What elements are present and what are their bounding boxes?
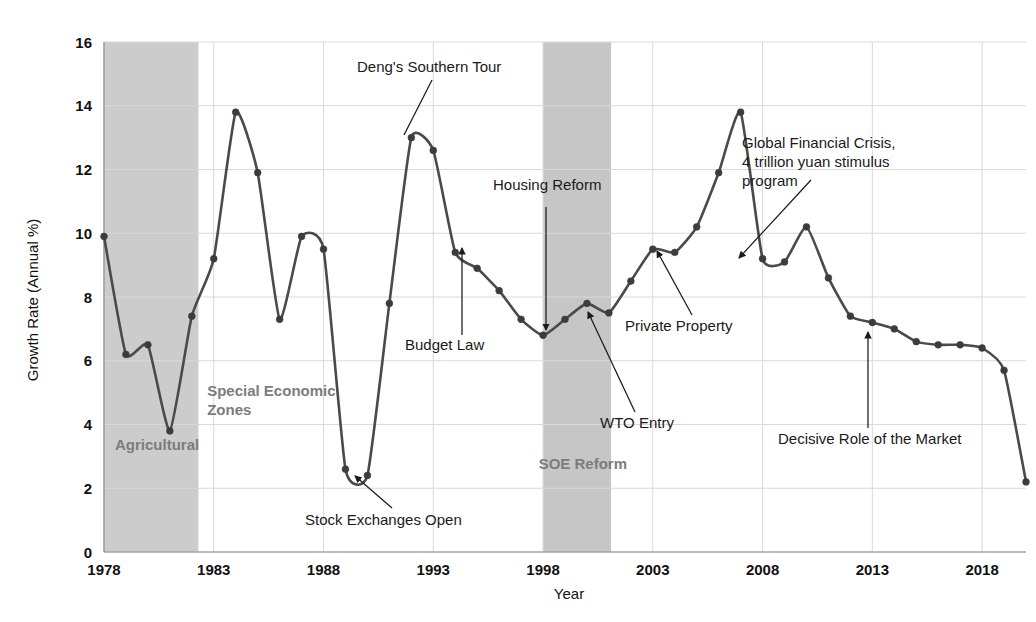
data-point-marker <box>671 249 678 256</box>
data-point-marker <box>913 338 920 345</box>
data-point-marker <box>166 427 173 434</box>
data-point-marker <box>123 351 130 358</box>
x-tick-label: 2013 <box>856 561 889 578</box>
data-point-marker <box>276 316 283 323</box>
y-tick-label: 12 <box>75 161 92 178</box>
annotation-text-line: program <box>742 172 798 189</box>
x-tick-label: 1983 <box>197 561 230 578</box>
data-point-marker <box>759 255 766 262</box>
data-point-marker <box>474 265 481 272</box>
x-tick-label: 1988 <box>307 561 340 578</box>
y-tick-label: 0 <box>84 544 92 561</box>
data-point-marker <box>298 233 305 240</box>
data-point-marker <box>496 287 503 294</box>
data-point-marker <box>101 233 108 240</box>
y-tick-label: 14 <box>75 97 92 114</box>
annotation-text-line: 4 trillion yuan stimulus <box>742 153 890 170</box>
data-point-marker <box>145 341 152 348</box>
annotation-text-line: Global Financial Crisis, <box>742 134 895 151</box>
data-point-marker <box>847 313 854 320</box>
y-tick-label: 16 <box>75 34 92 51</box>
y-axis-title: Growth Rate (Annual %) <box>24 219 41 382</box>
annotation-text-line: Private Property <box>625 317 733 334</box>
data-point-marker <box>649 246 656 253</box>
data-point-marker <box>627 278 634 285</box>
x-tick-label: 1998 <box>526 561 559 578</box>
data-point-marker <box>957 341 964 348</box>
data-point-marker <box>693 223 700 230</box>
band-label-line: SOE Reform <box>539 455 627 472</box>
data-point-marker <box>935 341 942 348</box>
chart-figure: 197819831988199319982003200820132018 024… <box>0 0 1036 622</box>
data-point-marker <box>254 169 261 176</box>
band-label-soe-reform: SOE Reform <box>539 455 627 472</box>
band-label-line: Agricultural <box>115 436 199 453</box>
x-axis-title: Year <box>554 585 584 602</box>
x-tick-label: 1993 <box>417 561 450 578</box>
band-label-line: Special Economic <box>207 382 335 399</box>
data-point-marker <box>386 300 393 307</box>
annotation-text-line: Housing Reform <box>493 176 601 193</box>
data-point-marker <box>562 316 569 323</box>
data-point-marker <box>518 316 525 323</box>
data-point-marker <box>452 249 459 256</box>
annotation-text-line: Budget Law <box>405 336 484 353</box>
data-point-marker <box>584 300 591 307</box>
annotation-text-line: Decisive Role of the Market <box>778 430 962 447</box>
data-point-marker <box>320 246 327 253</box>
x-tick-label: 1978 <box>87 561 120 578</box>
y-tick-label: 2 <box>84 480 92 497</box>
x-tick-label: 2003 <box>636 561 669 578</box>
annotation-label-private-property: Private Property <box>625 317 733 334</box>
x-tick-label: 2018 <box>965 561 998 578</box>
data-point-marker <box>869 319 876 326</box>
annotation-label-decisive-role-of-the-market: Decisive Role of the Market <box>778 430 962 447</box>
annotation-label-budget-law: Budget Law <box>405 336 484 353</box>
data-point-marker <box>342 466 349 473</box>
data-point-marker <box>781 259 788 266</box>
x-tick-labels-group: 197819831988199319982003200820132018 <box>87 561 998 578</box>
annotation-text-line: Stock Exchanges Open <box>305 511 462 528</box>
y-tick-label: 8 <box>84 289 92 306</box>
data-point-marker <box>540 332 547 339</box>
band-label-agricultural: Agricultural <box>115 436 199 453</box>
growth-rate-line-chart: 197819831988199319982003200820132018 024… <box>0 0 1036 622</box>
y-tick-label: 6 <box>84 352 92 369</box>
data-point-marker <box>715 169 722 176</box>
data-point-marker <box>1023 478 1030 485</box>
annotation-label-housing-reform: Housing Reform <box>493 176 601 193</box>
data-point-marker <box>364 472 371 479</box>
y-tick-label: 10 <box>75 225 92 242</box>
data-point-marker <box>803 223 810 230</box>
data-point-marker <box>232 109 239 116</box>
annotation-text-line: Deng's Southern Tour <box>357 58 501 75</box>
x-tick-label: 2008 <box>746 561 779 578</box>
data-point-marker <box>188 313 195 320</box>
annotation-label-dengs-southern-tour: Deng's Southern Tour <box>357 58 501 75</box>
band-label-line: Zones <box>207 401 251 418</box>
data-point-marker <box>737 109 744 116</box>
y-tick-label: 4 <box>84 416 93 433</box>
data-point-marker <box>408 134 415 141</box>
data-point-marker <box>606 310 613 317</box>
annotation-label-stock-exchanges-open: Stock Exchanges Open <box>305 511 462 528</box>
data-point-marker <box>210 255 217 262</box>
data-point-marker <box>825 274 832 281</box>
data-point-marker <box>891 325 898 332</box>
annotation-label-wto-entry: WTO Entry <box>600 414 674 431</box>
data-point-marker <box>1001 367 1008 374</box>
annotation-text-line: WTO Entry <box>600 414 674 431</box>
data-point-marker <box>430 147 437 154</box>
data-point-marker <box>979 345 986 352</box>
